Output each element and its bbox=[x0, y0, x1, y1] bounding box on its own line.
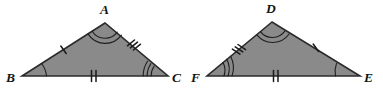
vertex-label-f: F bbox=[190, 70, 200, 85]
vertex-label-a: A bbox=[99, 2, 109, 17]
vertex-label-e: E bbox=[363, 70, 373, 85]
vertex-label-b: B bbox=[5, 70, 15, 85]
triangle-abc: A B C bbox=[5, 2, 182, 85]
triangle-def: D F E bbox=[190, 1, 373, 85]
vertex-label-d: D bbox=[265, 1, 276, 16]
vertex-label-c: C bbox=[172, 70, 182, 85]
geometry-canvas: A B C bbox=[0, 0, 383, 91]
triangle-def-body bbox=[207, 22, 360, 76]
geometry-figure: A B C bbox=[0, 0, 383, 91]
